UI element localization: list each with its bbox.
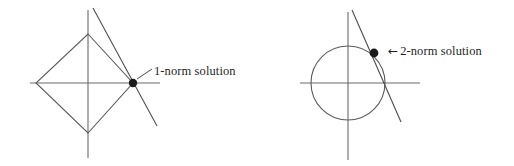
l1-solution-point <box>129 79 137 87</box>
l1-norm-solution-label: 1-norm solution <box>154 64 236 79</box>
l1-constraint-line <box>93 8 157 126</box>
figure-canvas <box>0 0 514 166</box>
l2-constraint-line <box>352 10 401 122</box>
norm-comparison-figure: 1-norm solution ←2-norm solution <box>0 0 514 166</box>
left-arrow-icon: ← <box>388 44 398 58</box>
l2-label-text: 2-norm solution <box>400 44 482 58</box>
l2-solution-point <box>370 49 379 58</box>
l1-pointer-tick-icon <box>137 69 152 79</box>
l2-panel-group <box>300 10 420 160</box>
l1-label-text: 1-norm solution <box>154 64 236 78</box>
l2-norm-solution-label: ←2-norm solution <box>388 44 482 59</box>
l1-panel-group <box>30 8 160 158</box>
